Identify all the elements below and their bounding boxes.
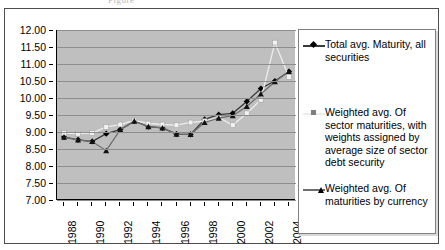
y-axis-tick-label: 11.00: [21, 59, 47, 69]
gridline: [57, 30, 296, 31]
x-axis-tick-label: 1994: [151, 221, 161, 244]
plot-area: [56, 30, 295, 200]
x-axis-tick-mark: [288, 202, 289, 206]
legend-label: Weighted avg. Of sector maturities, with…: [325, 106, 435, 169]
legend-label: Weighted avg. Of maturities by currency: [325, 182, 435, 207]
gridline: [57, 183, 296, 184]
y-axis-tick-label: 10.50: [20, 76, 46, 86]
y-axis-labels: 12.0011.5011.0010.5010.009.509.008.508.0…: [5, 30, 53, 200]
y-axis-tick-label: 11.50: [21, 42, 47, 52]
y-axis-tick-label: 10.00: [20, 93, 46, 103]
x-axis-tick-label: 1990: [95, 221, 105, 244]
gridline: [57, 166, 296, 167]
x-axis-tick-label: 1996: [180, 221, 190, 244]
gridline: [57, 115, 296, 116]
x-axis-tick-mark: [77, 202, 78, 206]
x-axis-tick-label: 1988: [67, 221, 77, 244]
x-axis-tick-mark: [204, 202, 205, 206]
x-axis-tick-label: 2000: [236, 221, 246, 244]
gridline: [57, 47, 296, 48]
legend-label: Total avg. Maturity, all securities: [325, 38, 435, 63]
gridline: [57, 64, 296, 65]
x-axis-tick-mark: [63, 202, 64, 206]
series-marker-square: [174, 123, 179, 128]
x-axis-tick-mark: [105, 202, 106, 206]
x-axis-tick-mark: [274, 202, 275, 206]
x-axis-tick-mark: [119, 202, 120, 206]
y-axis-tick-label: 7.50: [26, 178, 46, 188]
legend-point-marker: [311, 42, 316, 47]
y-axis-tick-mark: [49, 98, 53, 99]
y-axis-tick-mark: [49, 47, 53, 48]
x-axis-tick-mark: [91, 202, 92, 206]
y-axis-tick-mark: [49, 183, 53, 184]
x-axis-tick-mark: [147, 202, 148, 206]
legend-marker-square-icon: [303, 108, 325, 120]
chart-legend: Total avg. Maturity, all securitiesWeigh…: [298, 29, 436, 234]
gridline: [57, 200, 296, 201]
y-axis-tick-label: 8.50: [26, 144, 46, 154]
y-axis-tick-mark: [49, 81, 53, 82]
x-axis-tick-label: 1992: [123, 221, 133, 244]
x-axis-tick-mark: [260, 202, 261, 206]
y-axis-tick-label: 12.00: [20, 25, 46, 35]
x-axis-tick-mark: [161, 202, 162, 206]
series-marker-square: [118, 122, 123, 127]
gridline: [57, 98, 296, 99]
series-marker-square: [188, 120, 193, 125]
x-axis-tick-mark: [218, 202, 219, 206]
y-axis-tick-mark: [49, 132, 53, 133]
x-axis-tick-mark: [176, 202, 177, 206]
y-axis-tick-mark: [49, 149, 53, 150]
series-marker-square: [230, 123, 235, 128]
y-axis-tick-label: 9.00: [26, 127, 46, 137]
x-axis-tick-label: 1998: [208, 221, 218, 244]
gridline: [57, 132, 296, 133]
y-axis-tick-label: 9.50: [26, 110, 46, 120]
series-marker-square: [273, 40, 278, 45]
legend-item[interactable]: Weighted avg. Of sector maturities, with…: [303, 106, 435, 169]
x-axis-tick-label: 2002: [264, 221, 274, 244]
legend-item[interactable]: Total avg. Maturity, all securities: [303, 38, 435, 63]
legend-point-marker: [311, 110, 316, 115]
plot-area-wrapper: [56, 30, 295, 200]
x-axis-labels: 198819901992199419961998200020022004: [56, 202, 295, 250]
y-axis-tick-mark: [49, 64, 53, 65]
series-line: [64, 43, 289, 134]
legend-marker-diamond-icon: [303, 40, 325, 52]
gridline: [57, 81, 296, 82]
y-axis-tick-mark: [49, 166, 53, 167]
legend-item[interactable]: Weighted avg. Of maturities by currency: [303, 182, 435, 207]
gridline: [57, 149, 296, 150]
x-axis-tick-mark: [246, 202, 247, 206]
y-axis-tick-mark: [49, 200, 53, 201]
series-marker-square: [104, 125, 109, 130]
series-marker-square: [287, 75, 292, 80]
y-axis-tick-label: 8.00: [26, 161, 46, 171]
y-axis-tick-mark: [49, 30, 53, 31]
x-axis-tick-mark: [232, 202, 233, 206]
chart-outer-frame: 12.0011.5011.0010.5010.009.509.008.508.0…: [4, 8, 439, 244]
clipped-caption-fragment: Figure: [108, 0, 135, 5]
chart-screenshot: Figure 12.0011.5011.0010.5010.009.509.00…: [0, 0, 445, 250]
y-axis-tick-label: 7.00: [26, 195, 46, 205]
x-axis-tick-mark: [133, 202, 134, 206]
y-axis-tick-mark: [49, 115, 53, 116]
x-axis-tick-mark: [190, 202, 191, 206]
legend-marker-triangle-icon: [303, 184, 325, 196]
